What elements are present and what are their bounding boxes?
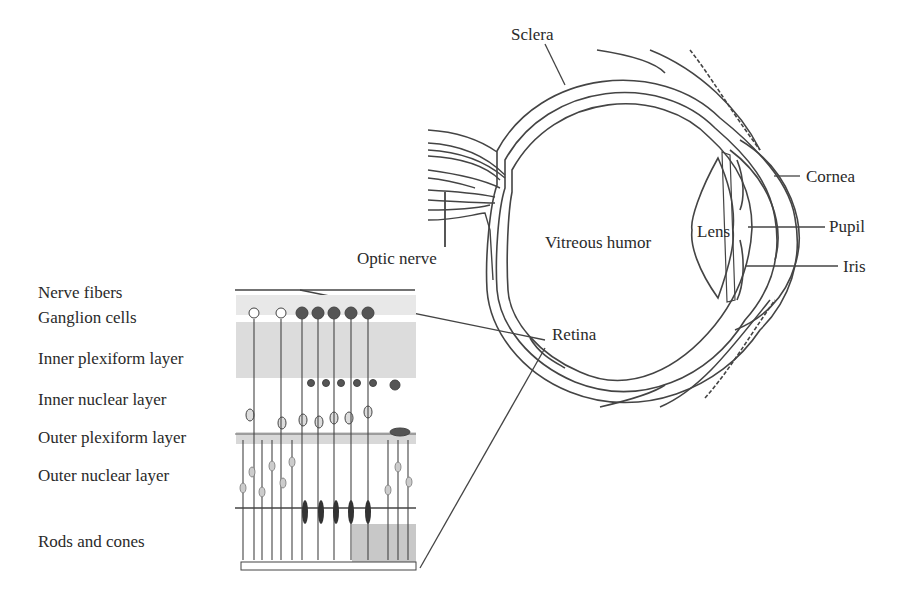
label-cornea: Cornea xyxy=(806,168,855,185)
layer-label-inner-plexiform: Inner plexiform layer xyxy=(38,350,183,367)
layer-label-inner-nuclear: Inner nuclear layer xyxy=(38,391,166,408)
label-optic-nerve: Optic nerve xyxy=(357,250,437,267)
label-lens: Lens xyxy=(697,223,730,240)
eyeball xyxy=(487,50,800,407)
label-retina: Retina xyxy=(552,326,596,343)
eye-diagram xyxy=(0,0,905,611)
layer-label-nerve-fibers: Nerve fibers xyxy=(38,284,123,301)
layer-label-outer-plexiform: Outer plexiform layer xyxy=(38,429,186,446)
layer-label-outer-nuclear: Outer nuclear layer xyxy=(38,467,169,484)
label-pupil: Pupil xyxy=(829,218,865,235)
label-sclera: Sclera xyxy=(511,26,553,43)
layer-label-rods-and-cones: Rods and cones xyxy=(38,533,145,550)
layer-label-ganglion-cells: Ganglion cells xyxy=(38,309,137,326)
optic-nerve xyxy=(428,130,505,280)
label-vitreous-humor: Vitreous humor xyxy=(545,234,651,251)
label-iris: Iris xyxy=(843,258,866,275)
retina-cell-diagram xyxy=(235,290,416,570)
